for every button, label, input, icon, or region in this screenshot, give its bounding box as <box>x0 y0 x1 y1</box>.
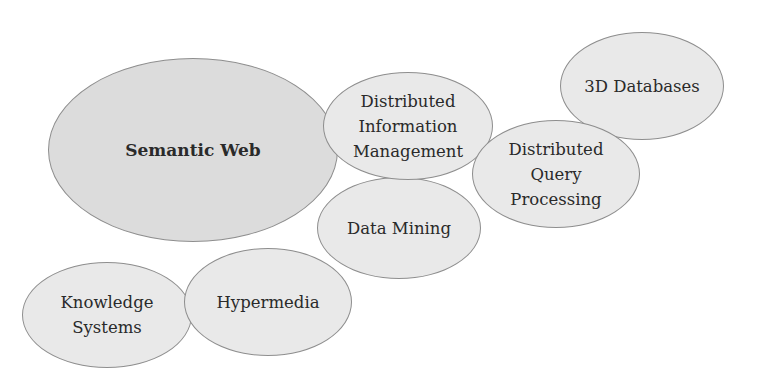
node-distributed-information-management: Distributed Information Management <box>323 72 493 180</box>
topic-ellipse-diagram: Semantic Web Data Mining Distributed Inf… <box>0 0 758 388</box>
node-hypermedia: Hypermedia <box>184 248 352 356</box>
node-label: Semantic Web <box>125 138 260 163</box>
node-label: 3D Databases <box>584 74 700 99</box>
node-label: Hypermedia <box>216 290 319 315</box>
node-knowledge-systems: Knowledge Systems <box>22 262 192 368</box>
node-label: Distributed Query Processing <box>509 137 604 212</box>
node-label: Data Mining <box>347 216 451 241</box>
node-label: Distributed Information Management <box>353 89 463 164</box>
node-label: Knowledge Systems <box>61 290 154 340</box>
node-semantic-web: Semantic Web <box>48 58 338 242</box>
node-distributed-query-processing: Distributed Query Processing <box>472 120 640 228</box>
node-data-mining: Data Mining <box>317 177 481 279</box>
